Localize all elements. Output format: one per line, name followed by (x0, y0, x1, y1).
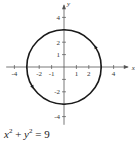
plus-sign: + (15, 128, 21, 140)
y-tick-label: -2 (54, 88, 60, 96)
exponent-y: 2 (29, 127, 33, 135)
x-tick-label: 2 (87, 70, 91, 78)
exponent-x: 2 (9, 127, 13, 135)
x-axis-label: x (131, 64, 135, 72)
x-tick-label: 1 (75, 70, 79, 78)
equals-sign: = (35, 128, 41, 140)
rhs-value: 9 (44, 128, 50, 140)
equation-caption: x2 + y2 = 9 (4, 128, 50, 140)
coordinate-plane: xy-4-2-1124421-2-4 (0, 0, 135, 126)
y-tick-label: 4 (57, 14, 61, 22)
x-tick-label: 4 (112, 70, 116, 78)
y-axis-arrow-icon (62, 4, 66, 9)
x-tick-label: -4 (11, 70, 17, 78)
x-tick-label: -2 (36, 70, 42, 78)
x-axis-arrow-icon (124, 65, 129, 69)
x-tick-label: -1 (49, 70, 55, 78)
y-tick-label: 1 (57, 51, 61, 59)
y-tick-label: -4 (54, 113, 60, 121)
y-tick-label: 2 (57, 39, 61, 47)
y-axis-label: y (66, 0, 71, 8)
